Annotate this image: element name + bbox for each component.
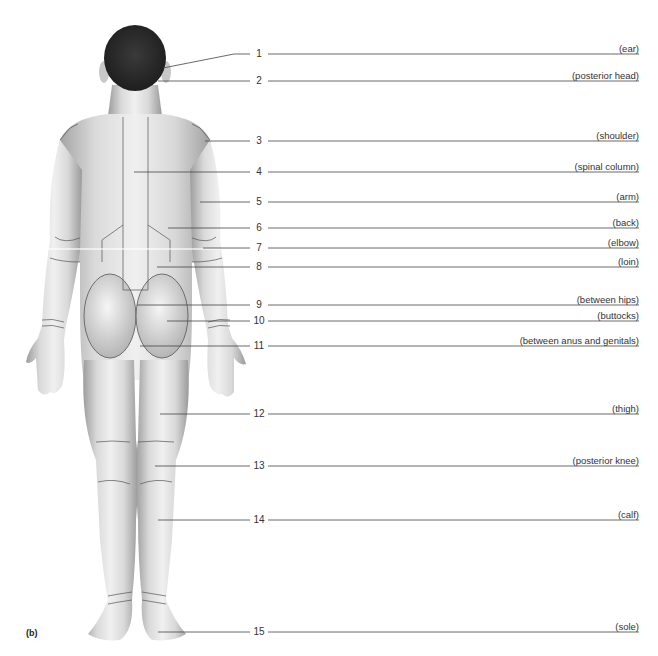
label-term: (thigh): [612, 403, 639, 415]
label-term: (between hips): [577, 294, 639, 306]
label-number: 7: [250, 242, 268, 254]
label-number: 2: [250, 75, 268, 87]
left-buttock: [84, 274, 136, 358]
label-number: 11: [250, 340, 268, 352]
right-arm: [190, 140, 246, 397]
head-hair: [104, 25, 166, 91]
label-term: (between anus and genitals): [520, 335, 639, 347]
label-number: 13: [250, 460, 268, 472]
label-number: 3: [250, 135, 268, 147]
label-term: (back): [613, 217, 639, 229]
label-number: 5: [250, 196, 268, 208]
label-term: (sole): [615, 621, 639, 633]
label-term: (posterior knee): [572, 455, 639, 467]
label-term: (posterior head): [572, 70, 639, 82]
label-number: 9: [250, 299, 268, 311]
label-number: 4: [250, 166, 268, 178]
right-buttock: [136, 274, 188, 358]
label-term: (buttocks): [597, 310, 639, 322]
label-term: (calf): [618, 509, 639, 521]
label-number: 15: [250, 626, 268, 638]
right-leg: [136, 360, 189, 640]
label-term: (elbow): [608, 237, 639, 249]
panel-label: (b): [26, 628, 38, 638]
label-number: 1: [250, 48, 268, 60]
label-term: (arm): [616, 191, 639, 203]
label-number: 8: [250, 261, 268, 273]
left-arm: [26, 140, 82, 395]
label-number: 6: [250, 222, 268, 234]
label-term: (spinal column): [575, 161, 639, 173]
label-term: (ear): [619, 43, 639, 55]
posterior-body-figure: [0, 0, 658, 656]
left-leg: [83, 360, 138, 640]
label-term: (loin): [618, 256, 639, 268]
label-term: (shoulder): [596, 130, 639, 142]
label-number: 10: [250, 315, 268, 327]
leader-line-1: [163, 54, 252, 68]
body-silhouette: [26, 25, 246, 640]
label-number: 14: [250, 514, 268, 526]
label-number: 12: [250, 408, 268, 420]
